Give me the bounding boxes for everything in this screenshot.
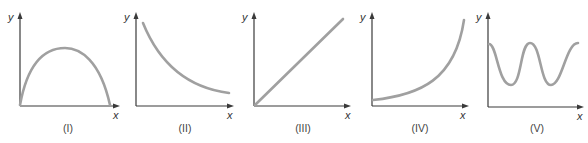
x-axis-label: x	[226, 109, 233, 121]
x-axis-label: x	[344, 109, 351, 121]
curve-parabola	[20, 48, 110, 105]
panel-3: y x (III)	[241, 11, 351, 134]
curve-decay	[143, 23, 229, 93]
panel-4: y x (IV)	[359, 11, 469, 134]
y-axis-arrow-icon	[134, 12, 139, 19]
x-axis-label: x	[576, 110, 583, 122]
y-axis-label: y	[359, 11, 367, 23]
y-axis-label: y	[7, 11, 15, 23]
x-axis-label: x	[459, 109, 466, 121]
y-axis-arrow-icon	[252, 12, 257, 19]
x-axis-arrow-icon	[227, 104, 234, 109]
graphs-figure: y x (I) y x (II) y x (III) y x (IV)	[0, 0, 588, 143]
panel-1: y x (I)	[7, 11, 120, 134]
y-axis-label: y	[123, 11, 131, 23]
x-axis-arrow-icon	[462, 104, 469, 109]
panel-2: y x (II)	[123, 11, 234, 134]
x-axis-arrow-icon	[577, 105, 584, 110]
panel-caption: (III)	[295, 122, 311, 134]
x-axis-label: x	[112, 109, 119, 121]
panel-caption: (II)	[179, 122, 192, 134]
y-axis-label: y	[475, 11, 483, 23]
curve-growth	[373, 20, 464, 100]
panel-caption: (IV)	[412, 122, 429, 134]
curve-wave	[489, 43, 578, 85]
panel-5: y x (V)	[475, 11, 584, 134]
x-axis-arrow-icon	[113, 104, 120, 109]
y-axis-label: y	[241, 11, 249, 23]
curve-linear	[255, 19, 343, 105]
y-axis-arrow-icon	[370, 12, 375, 19]
x-axis-arrow-icon	[344, 104, 351, 109]
y-axis-arrow-icon	[486, 12, 491, 19]
panel-caption: (V)	[530, 122, 544, 134]
y-axis-arrow-icon	[18, 12, 23, 19]
panel-caption: (I)	[63, 122, 73, 134]
